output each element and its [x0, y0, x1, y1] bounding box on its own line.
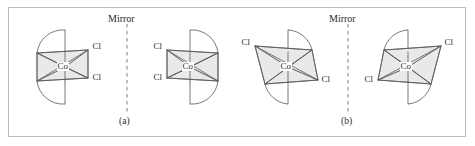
- ligand-label-cl-3a: Cl: [241, 38, 251, 47]
- ligand-label-cl-2a: Cl: [153, 42, 163, 51]
- ligand-label-cl-2b: Cl: [153, 73, 163, 82]
- chelate-arc-lower: [408, 84, 431, 104]
- structure-canvas: [0, 0, 475, 146]
- ligand-label-cl-3b: Cl: [321, 75, 331, 84]
- chelate-arc-lower: [37, 81, 65, 104]
- chelate-arc-upper: [190, 30, 218, 53]
- metal-label-co-4: Co: [400, 62, 412, 71]
- mirror-label-b: Mirror: [329, 14, 356, 24]
- ligand-label-cl-4a: Cl: [444, 38, 454, 47]
- mirror-label-a: Mirror: [108, 14, 135, 24]
- ligand-label-cl-1b: Cl: [92, 73, 102, 82]
- caption-b: (b): [341, 117, 352, 127]
- chelate-arc-upper: [37, 30, 65, 53]
- ligand-label-cl-1a: Cl: [92, 42, 102, 51]
- chelate-arc-upper: [288, 30, 312, 50]
- chelate-arc-lower: [190, 81, 218, 104]
- caption-a: (a): [119, 117, 130, 127]
- chelate-arc-upper: [384, 30, 408, 50]
- chelate-arc-lower: [265, 84, 288, 104]
- metal-label-co-1: Co: [57, 62, 69, 71]
- metal-label-co-2: Co: [182, 62, 194, 71]
- ligand-label-cl-4b: Cl: [364, 75, 374, 84]
- chemistry-figure: Mirror Mirror Co Cl Cl Co Cl Cl Co Cl Cl…: [0, 0, 475, 146]
- metal-label-co-3: Co: [280, 62, 292, 71]
